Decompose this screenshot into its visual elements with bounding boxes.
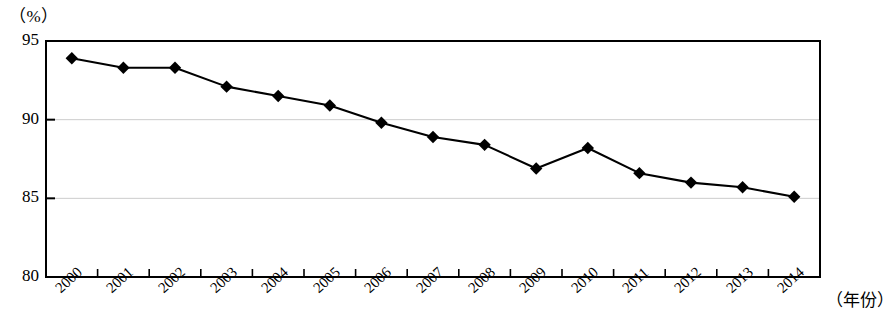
data-point-marker [788, 191, 800, 203]
data-point-marker [582, 142, 594, 154]
axis-frame [46, 41, 820, 277]
data-point-marker [530, 162, 542, 174]
data-point-marker [66, 52, 78, 64]
data-point-marker [685, 176, 697, 188]
y-axis-ticks [46, 120, 55, 199]
data-line [72, 58, 794, 196]
data-point-marker [117, 62, 129, 74]
data-point-marker [169, 62, 181, 74]
data-point-marker [633, 167, 645, 179]
data-point-marker [324, 99, 336, 111]
data-markers [66, 52, 801, 203]
data-point-marker [427, 131, 439, 143]
data-point-marker [220, 80, 232, 92]
x-axis-title: （年份） [826, 286, 885, 311]
line-chart: （%） 80859095 200020012002200320042005200… [0, 0, 885, 321]
data-point-marker [272, 90, 284, 102]
data-point-marker [375, 117, 387, 129]
data-point-marker [736, 181, 748, 193]
plot-border [46, 41, 820, 277]
data-point-marker [478, 139, 490, 151]
